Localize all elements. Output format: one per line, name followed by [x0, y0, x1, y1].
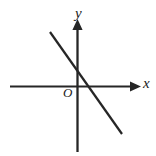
x-axis-arrow-icon: [130, 82, 141, 92]
coordinate-plane-figure: y x O: [0, 0, 156, 156]
x-axis-label: x: [143, 76, 150, 91]
plotted-line: [50, 32, 122, 134]
figure-canvas: [0, 0, 156, 156]
origin-label: O: [63, 86, 72, 99]
y-axis-label: y: [75, 6, 82, 21]
